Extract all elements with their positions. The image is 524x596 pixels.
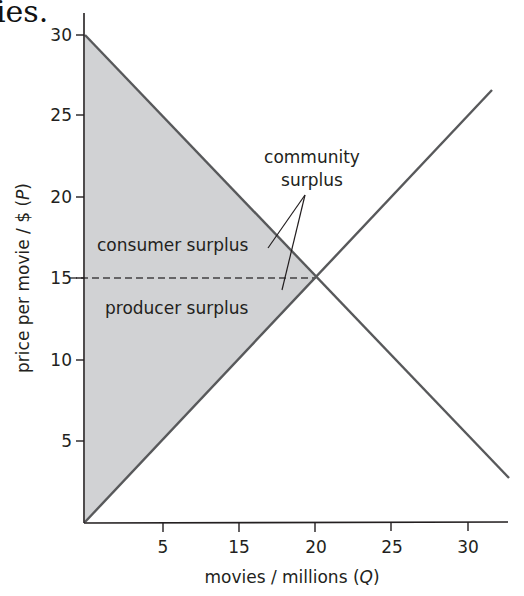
y-tick-label-30: 30 bbox=[50, 25, 72, 45]
y-tick-label-15: 15 bbox=[50, 268, 72, 288]
y-tick-label-10: 10 bbox=[50, 350, 72, 370]
x-axis bbox=[84, 522, 508, 523]
y-tick-label-5: 5 bbox=[61, 431, 72, 451]
community-surplus-label-line1: community bbox=[264, 147, 360, 167]
x-tick-labels: 5 15 20 25 30 bbox=[158, 537, 479, 557]
y-tick-labels: 30 25 20 15 10 5 bbox=[50, 25, 72, 451]
x-axis-title: movies / millions (Q) bbox=[204, 567, 379, 587]
surplus-chart: ies. 30 25 20 15 10 5 5 15 20 25 30 bbox=[0, 0, 524, 596]
producer-surplus-label: producer surplus bbox=[105, 298, 248, 318]
y-axis-title: price per movie / $ (P) bbox=[13, 183, 33, 373]
x-tick-label-15: 15 bbox=[228, 537, 250, 557]
y-axis-ticks bbox=[76, 35, 84, 441]
x-tick-label-5: 5 bbox=[158, 537, 169, 557]
y-tick-label-20: 20 bbox=[50, 187, 72, 207]
header-text-fragment: ies. bbox=[0, 0, 48, 29]
x-tick-label-30: 30 bbox=[457, 537, 479, 557]
consumer-surplus-label: consumer surplus bbox=[97, 235, 248, 255]
leader-line-consumer bbox=[268, 195, 305, 248]
x-tick-label-20: 20 bbox=[305, 537, 327, 557]
community-surplus-label-line2: surplus bbox=[281, 170, 343, 190]
x-tick-label-25: 25 bbox=[381, 537, 403, 557]
y-tick-label-25: 25 bbox=[50, 105, 72, 125]
